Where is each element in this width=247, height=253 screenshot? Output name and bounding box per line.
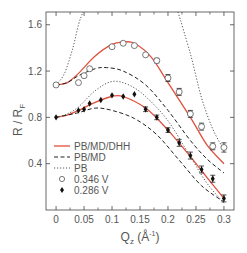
- data-point: [176, 88, 182, 95]
- data-point: [187, 110, 193, 117]
- data-point: [75, 80, 81, 86]
- legend-label: PB/MD: [74, 152, 106, 163]
- x-tick-label: 0.15: [130, 214, 150, 225]
- y-tick-label: 0.8: [28, 112, 42, 123]
- data-point: [109, 44, 115, 50]
- data-point: [54, 114, 58, 120]
- chart-svg: 00.050.10.150.20.250.30.40.81.21.6 PB/MD…: [0, 0, 247, 253]
- axis-ticks: 00.050.10.150.20.250.30.40.81.21.6: [28, 12, 234, 225]
- x-tick-label: 0: [53, 214, 59, 225]
- legend-label: PB/MD/DHH: [74, 141, 130, 152]
- legend-item: PB/MD/DHH: [54, 141, 130, 152]
- data-point: [143, 52, 149, 58]
- x-tick-label: 0.05: [74, 214, 94, 225]
- data-point: [87, 66, 93, 72]
- reflectivity-chart: 00.050.10.150.20.250.30.40.81.21.6 PB/MD…: [0, 0, 247, 253]
- data-point: [131, 43, 137, 49]
- legend-item: 0.286 V: [60, 185, 109, 196]
- y-tick-label: 0.4: [28, 158, 42, 169]
- data-point: [143, 106, 148, 112]
- data-point: [120, 40, 126, 46]
- data-point: [110, 92, 114, 98]
- x-tick-label: 0.25: [186, 214, 206, 225]
- data-point: [165, 75, 171, 82]
- data-point: [132, 91, 136, 97]
- legend-item: 0.346 V: [59, 174, 108, 185]
- data-point: [154, 114, 159, 120]
- curve-pb-0-346-v-: [56, 12, 83, 85]
- data-point: [210, 143, 216, 150]
- x-tick-label: 0.1: [105, 214, 119, 225]
- data-point: [210, 175, 215, 182]
- data-point: [165, 127, 170, 133]
- legend-item: PB: [54, 163, 88, 174]
- legend-label: 0.286 V: [74, 185, 109, 196]
- x-axis-label: Qz (Å-1): [121, 229, 160, 246]
- data-point: [199, 123, 205, 130]
- x-tick-label: 0.2: [161, 214, 175, 225]
- data-point: [53, 82, 59, 88]
- data-point: [221, 143, 227, 152]
- legend: PB/MD/DHHPB/MDPB0.346 V0.286 V: [54, 141, 130, 196]
- data-point: [99, 97, 103, 103]
- data-point: [121, 93, 125, 99]
- y-axis-label: R / RF: [11, 104, 27, 136]
- legend-label: 0.346 V: [74, 174, 109, 185]
- data-point: [81, 73, 87, 79]
- legend-item: PB/MD: [54, 152, 106, 163]
- data-point: [154, 58, 160, 64]
- legend-label: PB: [74, 163, 88, 174]
- y-tick-label: 1.2: [28, 66, 42, 77]
- y-tick-label: 1.6: [28, 19, 42, 30]
- x-tick-label: 0.3: [217, 214, 231, 225]
